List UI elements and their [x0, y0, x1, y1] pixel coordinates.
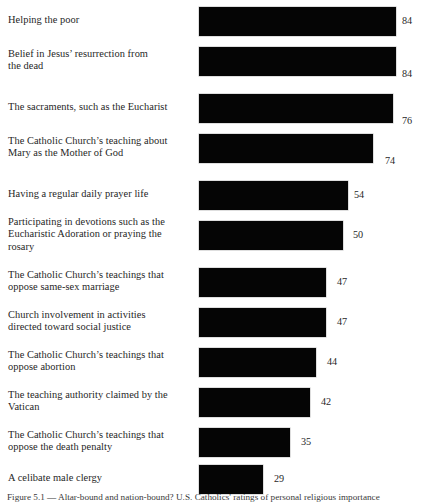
bar-fill	[199, 465, 263, 494]
bar-category-label-line: Having a regular daily prayer life	[8, 188, 194, 200]
bar-value-label: 54	[354, 189, 364, 201]
bar-category-label: The teaching authority claimed by theVat…	[8, 389, 194, 414]
bar-value-label: 84	[402, 68, 412, 80]
bar-track	[199, 94, 393, 123]
bar-row: The Catholic Church’s teachings thatoppo…	[0, 262, 434, 302]
bar-category-label: The Catholic Church’s teachings thatoppo…	[8, 349, 194, 374]
figure-caption: Figure 5.1 — Altar-bound and nation-boun…	[7, 492, 431, 503]
bar-category-label-line: The Catholic Church’s teachings that	[8, 349, 194, 361]
bar-category-label: Participating in devotions such as theEu…	[8, 216, 194, 253]
bar-value-label: 47	[337, 276, 347, 288]
bar-category-label-line: the dead	[8, 60, 194, 72]
bar-category-label: The sacraments, such as the Eucharist	[8, 101, 194, 113]
bar-value-label: 44	[327, 356, 337, 368]
bar-fill	[199, 428, 290, 457]
bar-category-label-line: Participating in devotions such as the	[8, 216, 194, 228]
bar-category-label: A celibate male clergy	[8, 472, 194, 484]
bar-track	[199, 47, 396, 76]
bar-row: Having a regular daily prayer life54	[0, 175, 434, 215]
bar-value-label: 35	[301, 436, 311, 448]
bar-fill	[199, 7, 396, 36]
bar-category-label: Helping the poor	[8, 14, 194, 26]
bar-track	[199, 348, 316, 377]
bar-category-label-line: oppose the death penalty	[8, 441, 194, 453]
bar-category-label-line: Vatican	[8, 401, 194, 413]
bar-fill	[199, 94, 393, 123]
bar-chart-figure: Helping the poor84Belief in Jesus’ resur…	[0, 0, 434, 503]
bar-category-label: Belief in Jesus’ resurrection fromthe de…	[8, 48, 194, 73]
bar-category-label-line: The Catholic Church’s teachings that	[8, 269, 194, 281]
bar-row: The Catholic Church’s teachings thatoppo…	[0, 422, 434, 462]
bar-row: The sacraments, such as the Eucharist76	[0, 88, 434, 128]
bar-category-label-line: Church involvement in activities	[8, 309, 194, 321]
bar-category-label: Having a regular daily prayer life	[8, 188, 194, 200]
bar-track	[199, 465, 263, 494]
bar-row: Church involvement in activitiesdirected…	[0, 302, 434, 342]
bar-category-label-line: directed toward social justice	[8, 321, 194, 333]
bar-category-label: The Catholic Church’s teachings thatoppo…	[8, 429, 194, 454]
bar-track	[199, 221, 343, 250]
bar-track	[199, 134, 373, 163]
bar-category-label-line: oppose abortion	[8, 361, 194, 373]
bar-category-label-line: oppose same-sex marriage	[8, 281, 194, 293]
bar-category-label-line: rosary	[8, 241, 194, 253]
bar-value-label: 50	[353, 229, 363, 241]
bar-value-label: 42	[321, 396, 331, 408]
bar-track	[199, 181, 348, 210]
bar-track	[199, 388, 310, 417]
bar-fill	[199, 181, 348, 210]
bar-fill	[199, 388, 310, 417]
bar-fill	[199, 268, 326, 297]
bar-value-label: 74	[385, 155, 395, 167]
bar-fill	[199, 47, 396, 76]
bar-row: The teaching authority claimed by theVat…	[0, 382, 434, 422]
bar-category-label-line: The Catholic Church’s teachings that	[8, 429, 194, 441]
bar-category-label: The Catholic Church’s teachings thatoppo…	[8, 269, 194, 294]
bar-category-label-line: Helping the poor	[8, 14, 194, 26]
bar-category-label-line: The sacraments, such as the Eucharist	[8, 101, 194, 113]
bar-category-label-line: The teaching authority claimed by the	[8, 389, 194, 401]
bar-track	[199, 7, 396, 36]
bar-track	[199, 268, 326, 297]
bar-value-label: 47	[337, 316, 347, 328]
bar-category-label: Church involvement in activitiesdirected…	[8, 309, 194, 334]
bar-value-label: 29	[274, 473, 284, 485]
bar-category-label: The Catholic Church’s teaching aboutMary…	[8, 135, 194, 160]
bar-fill	[199, 308, 326, 337]
bar-value-label: 76	[402, 115, 412, 127]
bar-category-label-line: The Catholic Church’s teaching about	[8, 135, 194, 147]
bar-category-label-line: Belief in Jesus’ resurrection from	[8, 48, 194, 60]
bar-category-label-line: A celibate male clergy	[8, 472, 194, 484]
bar-category-label-line: Mary as the Mother of God	[8, 147, 194, 159]
bar-row: Belief in Jesus’ resurrection fromthe de…	[0, 41, 434, 81]
bar-fill	[199, 221, 343, 250]
bar-fill	[199, 134, 373, 163]
bar-row: Participating in devotions such as theEu…	[0, 215, 434, 255]
bar-row: The Catholic Church’s teaching aboutMary…	[0, 128, 434, 168]
bar-fill	[199, 348, 316, 377]
bar-track	[199, 308, 326, 337]
bar-category-label-line: Eucharistic Adoration or praying the	[8, 228, 194, 240]
bar-row: The Catholic Church’s teachings thatoppo…	[0, 342, 434, 382]
bar-row: Helping the poor84	[0, 1, 434, 41]
bar-value-label: 84	[402, 15, 412, 27]
bar-track	[199, 428, 290, 457]
